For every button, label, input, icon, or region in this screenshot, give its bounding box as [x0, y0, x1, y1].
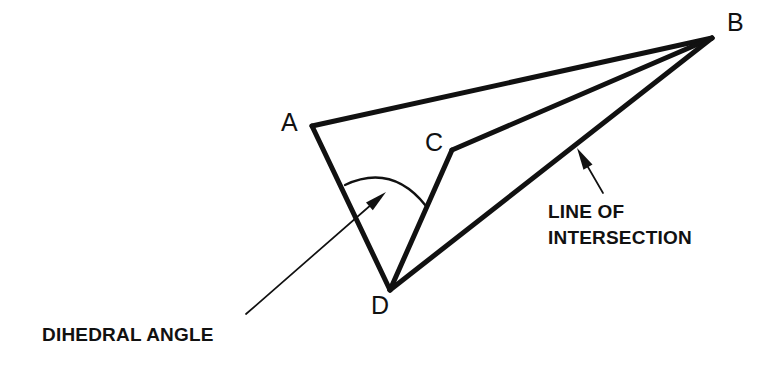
edge-c-b [452, 38, 712, 150]
vertex-label-c: C [425, 130, 443, 155]
dihedral-angle-label: DIHEDRAL ANGLE [42, 322, 214, 348]
vertex-label-b: B [727, 10, 744, 35]
edge-a-d [312, 126, 390, 290]
dihedral-angle-leader-line [246, 197, 380, 314]
vertex-label-a: A [281, 110, 298, 135]
dihedral-angle-figure: A B C D DIHEDRAL ANGLE LINE OF INTERSECT… [0, 0, 767, 376]
line-of-intersection-arrowhead [577, 148, 593, 170]
edge-c-d [390, 150, 452, 290]
line-of-intersection-label: LINE OF INTERSECTION [548, 199, 692, 250]
diagram-canvas [0, 0, 767, 376]
vertex-label-d: D [371, 293, 389, 318]
dihedral-angle-arc [345, 178, 426, 206]
